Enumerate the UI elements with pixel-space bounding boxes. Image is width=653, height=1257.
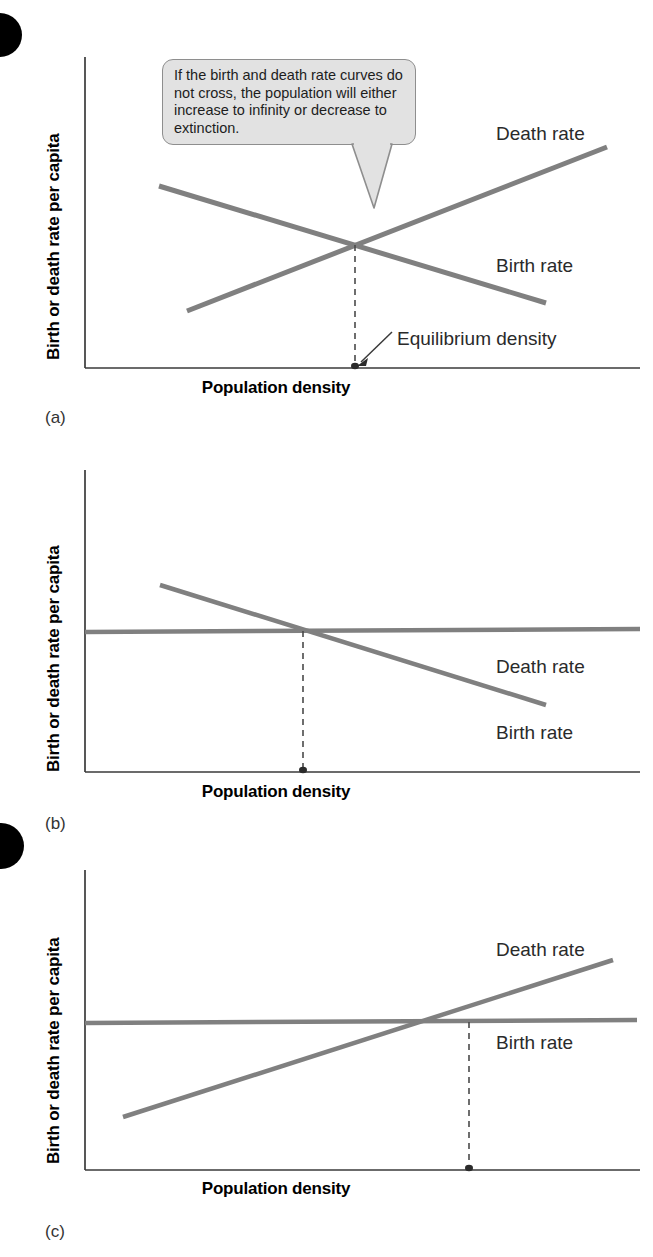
panel-a-graphics [0, 0, 653, 420]
callout-tail-mask [354, 138, 390, 147]
death-rate-line-c [123, 960, 613, 1117]
panel-c: Birth or death rate per capita Populatio… [0, 850, 653, 1257]
panel-tag-c: (c) [45, 1222, 65, 1242]
figure-root: Birth or death rate per capita Populatio… [0, 0, 653, 1257]
birth-rate-line-b [160, 585, 546, 705]
panel-tag-b: (b) [45, 814, 66, 834]
panel-b: Birth or death rate per capita Populatio… [0, 420, 653, 850]
panel-c-graphics [0, 850, 653, 1257]
equilibrium-point-marker-c [465, 1165, 473, 1171]
death-rate-line-a [187, 147, 607, 311]
equilibrium-point-marker-b [299, 767, 307, 773]
birth-rate-line-c [85, 1020, 637, 1023]
panel-b-graphics [0, 420, 653, 850]
equilibrium-leader-line [361, 332, 392, 362]
callout-tail-icon [352, 144, 392, 208]
death-rate-line-b [85, 629, 640, 632]
panel-a: Birth or death rate per capita Populatio… [0, 0, 653, 420]
